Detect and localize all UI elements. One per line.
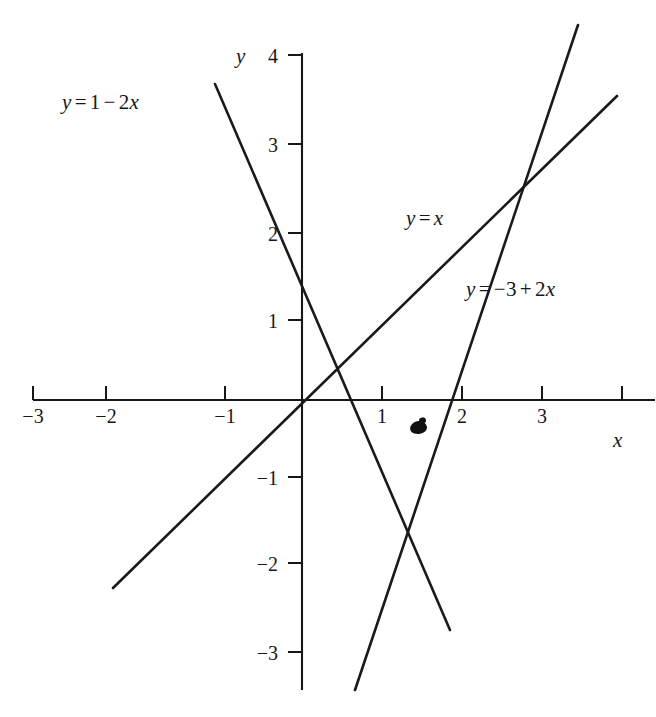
- equation-label-line2: y=x: [406, 206, 443, 231]
- equation-lhs: y: [406, 206, 416, 230]
- x-tick-label--1: −1: [214, 405, 235, 428]
- y-tick-label--2: −2: [236, 553, 278, 576]
- x-tick-label--3: −3: [22, 405, 43, 428]
- equation-equals: =: [72, 90, 90, 114]
- y-tick-label-1: 1: [250, 310, 278, 333]
- line-y-equals-x: [113, 96, 617, 588]
- y-tick-marks: [288, 55, 302, 652]
- y-axis-label: y: [236, 44, 245, 69]
- equation-label-line1: y=1−2x: [62, 90, 139, 115]
- y-tick-label--1: −1: [236, 467, 278, 490]
- line-y-equals-1-minus-2x: [215, 84, 450, 630]
- equation-variable: x: [546, 277, 556, 301]
- plotted-lines: [113, 25, 617, 690]
- equation-constant: 1: [90, 90, 101, 114]
- x-tick-marks: [33, 386, 622, 400]
- equation-lhs: y: [466, 277, 476, 301]
- equation-operator: −: [101, 90, 119, 114]
- equation-variable: x: [130, 90, 140, 114]
- x-tick-label-1: 1: [377, 405, 387, 428]
- equation-coefficient: 2: [119, 90, 130, 114]
- equation-constant: −3: [494, 277, 517, 301]
- y-tick-label--3: −3: [236, 642, 278, 665]
- equation-equals: =: [476, 277, 494, 301]
- line-graph-figure: y x −3 −2 −1 1 2 3 4 3 2 1 −1 −2 −3 y=1−…: [0, 0, 656, 717]
- equation-label-line3: y=−3+2x: [466, 277, 555, 302]
- y-tick-label-3: 3: [250, 134, 278, 157]
- line-y-equals-minus3-plus-2x: [355, 25, 578, 690]
- x-tick-label--2: −2: [95, 405, 116, 428]
- y-tick-label-4: 4: [250, 45, 278, 68]
- equation-operator: +: [517, 277, 535, 301]
- equation-lhs: y: [62, 90, 72, 114]
- equation-coefficient: 2: [535, 277, 546, 301]
- equation-equals: =: [416, 206, 434, 230]
- y-tick-label-2: 2: [250, 223, 278, 246]
- equation-variable: x: [434, 206, 444, 230]
- x-tick-label-2: 2: [457, 405, 467, 428]
- x-axis-label: x: [613, 428, 622, 453]
- x-tick-label-3: 3: [537, 405, 547, 428]
